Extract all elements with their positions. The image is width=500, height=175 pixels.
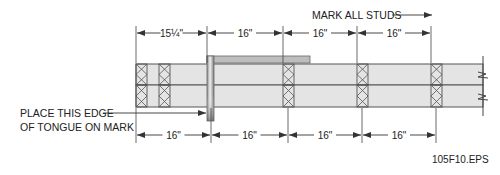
diagram-canvas: 15¼"16"16"16" 16"16"16"16" MARK ALL STUD… — [0, 0, 500, 175]
dimension-label: 15¼" — [160, 28, 183, 39]
callout-line2: OF TONGUE ON MARK — [20, 121, 134, 133]
bottom-dimensions: 16"16"16"16" — [137, 130, 435, 141]
bottom-dimension: 16" — [212, 130, 287, 141]
dimension-label: 16" — [313, 28, 328, 39]
floor-sheathing-diagram: 15¼"16"16"16" 16"16"16"16" MARK ALL STUD… — [0, 0, 500, 175]
top-dimensions: 15¼"16"16"16" — [137, 28, 430, 39]
top-dimension: 16" — [284, 28, 356, 39]
bottom-dimension: 16" — [137, 130, 210, 141]
dimension-label: 16" — [318, 130, 333, 141]
top-dimension: 16" — [358, 28, 430, 39]
dimension-label: 16" — [242, 130, 257, 141]
mark-all-studs-note: MARK ALL STUDS — [312, 9, 432, 21]
dimension-label: 16" — [166, 130, 181, 141]
dimension-label: 16" — [392, 130, 407, 141]
bottom-dimension: 16" — [363, 130, 435, 141]
mark-all-studs-label: MARK ALL STUDS — [312, 9, 401, 21]
top-dimension: 15¼" — [137, 28, 206, 39]
figure-id: 105F10.EPS — [432, 154, 489, 165]
callout-line1: PLACE THIS EDGE — [20, 107, 114, 119]
dimension-label: 16" — [387, 28, 402, 39]
top-dimension: 16" — [208, 28, 282, 39]
dimension-label: 16" — [238, 28, 253, 39]
bottom-dimension: 16" — [289, 130, 361, 141]
